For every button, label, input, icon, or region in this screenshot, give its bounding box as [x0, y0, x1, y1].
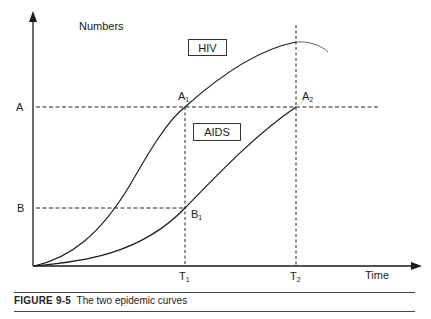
point-b1-label: B1	[191, 209, 202, 221]
x-axis-label: Time	[365, 270, 389, 281]
caption-bottom-rule	[14, 311, 415, 312]
hiv-curve	[34, 42, 296, 266]
t2-label: T2	[290, 271, 301, 283]
level-b-label: B	[17, 203, 24, 214]
point-a2-label: A2	[302, 91, 313, 103]
level-a-label: A	[16, 102, 23, 113]
hiv-label-box: HIV	[188, 39, 227, 56]
aids-curve	[34, 107, 296, 266]
figure-number: FIGURE 9-5	[14, 295, 71, 306]
aids-label: AIDS	[204, 126, 230, 138]
hiv-label: HIV	[198, 42, 216, 54]
t1-label: T1	[179, 271, 190, 283]
x-axis-arrow-icon	[411, 262, 422, 270]
y-axis-label: Numbers	[79, 21, 124, 32]
aids-label-box: AIDS	[193, 123, 241, 141]
figure-caption-text: The two epidemic curves	[77, 295, 188, 306]
hiv-curve-tail	[296, 42, 328, 52]
figure-caption: FIGURE 9-5 The two epidemic curves	[14, 295, 187, 306]
y-axis-arrow-icon	[29, 11, 37, 22]
point-a1-label: A1	[178, 91, 189, 103]
caption-top-rule	[14, 292, 415, 293]
